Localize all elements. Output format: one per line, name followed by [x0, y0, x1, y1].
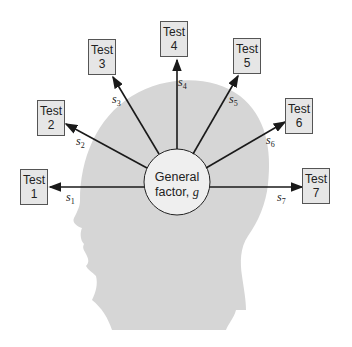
- test-5-label: Test: [234, 42, 260, 56]
- test-2-label: Test: [38, 104, 64, 118]
- test-7-label: Test: [303, 172, 329, 186]
- g-factor-diagram: General factor, g Test1 Test2 Test3 Test…: [0, 0, 352, 347]
- test-1-label: Test: [21, 173, 47, 187]
- test-4-box: Test4: [160, 21, 188, 57]
- test-3-label: Test: [89, 43, 115, 57]
- s4-label: s4: [178, 75, 187, 91]
- test-3-number: 3: [89, 57, 115, 71]
- s3-label: s3: [112, 92, 121, 108]
- g-symbol: g: [193, 185, 199, 199]
- test-4-label: Test: [161, 25, 187, 39]
- s1-label: s1: [66, 190, 75, 206]
- center-line-2: factor,: [155, 185, 189, 199]
- center-line-1: General: [145, 170, 209, 185]
- s2-label: s2: [76, 134, 85, 150]
- test-1-number: 1: [21, 187, 47, 201]
- test-7-number: 7: [303, 186, 329, 200]
- s5-label: s5: [229, 92, 238, 108]
- test-1-box: Test1: [20, 169, 48, 205]
- test-5-number: 5: [234, 56, 260, 70]
- test-2-number: 2: [38, 118, 64, 132]
- s7-label: s7: [277, 190, 286, 206]
- test-7-box: Test7: [302, 168, 330, 204]
- test-6-label: Test: [286, 102, 312, 116]
- test-6-box: Test6: [285, 98, 313, 134]
- s6-label: s6: [266, 133, 275, 149]
- general-factor-label: General factor, g: [145, 170, 209, 200]
- test-4-number: 4: [161, 39, 187, 53]
- test-2-box: Test2: [37, 100, 65, 136]
- test-5-box: Test5: [233, 38, 261, 74]
- test-3-box: Test3: [88, 39, 116, 75]
- test-6-number: 6: [286, 116, 312, 130]
